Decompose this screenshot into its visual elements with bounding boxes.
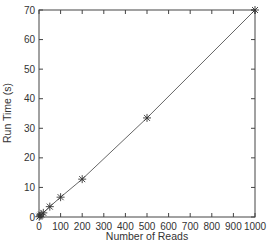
x-tick-label: 200 [74,221,91,232]
x-axis-title: Number of Reads [106,230,188,242]
data-point-marker [39,209,47,217]
x-tick-label: 900 [225,221,242,232]
data-point-marker [251,6,259,14]
plot-border [39,10,255,217]
x-tick-label: 800 [203,221,220,232]
y-axis-title: Run Time (s) [1,83,13,143]
y-tick-label: 30 [24,123,36,134]
y-tick-label: 10 [24,182,36,193]
y-tick-label: 70 [24,5,36,16]
y-tick-label: 40 [24,93,36,104]
x-tick-label: 1000 [244,221,267,232]
y-tick-label: 50 [24,64,36,75]
x-axis: 01002003004005006007008009001000 [36,10,266,232]
data-point-marker [46,203,54,211]
data-point-marker [143,114,151,122]
plot-frame [39,10,255,217]
x-tick-label: 0 [36,221,42,232]
run-time-chart: 010203040506070 010020030040050060070080… [0,0,269,245]
x-tick-label: 100 [52,221,69,232]
data-point-marker [57,193,65,201]
y-tick-label: 0 [29,212,35,223]
data-series [35,6,259,221]
y-tick-label: 60 [24,34,36,45]
data-point-marker [78,175,86,183]
y-tick-label: 20 [24,152,36,163]
series-line [39,10,255,217]
y-axis: 010203040506070 [24,5,255,223]
